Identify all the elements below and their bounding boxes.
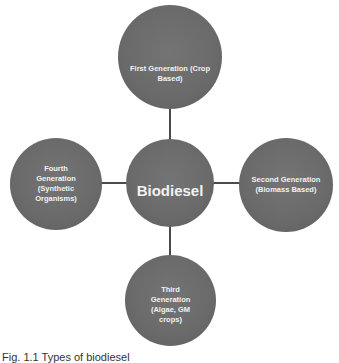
- connector-bottom: [169, 226, 171, 257]
- figure-caption: Fig. 1.1 Types of biodiesel: [2, 351, 130, 363]
- connector-right: [212, 182, 241, 184]
- node-label: Second Generation (Biomass Based): [239, 175, 333, 195]
- node-label: First Generation (Crop Based): [118, 64, 222, 84]
- node-biodiesel-center: Biodiesel: [126, 139, 214, 227]
- node-label: Third Generation (Algae, GM crops): [125, 285, 216, 325]
- node-third-generation: Third Generation (Algae, GM crops): [125, 255, 216, 346]
- node-fourth-generation: Fourth Generation (Synthetic Organisms): [10, 138, 102, 230]
- node-second-generation: Second Generation (Biomass Based): [239, 138, 333, 232]
- node-label: Fourth Generation (Synthetic Organisms): [10, 164, 102, 204]
- node-first-generation: First Generation (Crop Based): [118, 5, 222, 109]
- connector-left: [101, 182, 129, 184]
- connector-top: [169, 108, 171, 140]
- center-label: Biodiesel: [131, 182, 210, 200]
